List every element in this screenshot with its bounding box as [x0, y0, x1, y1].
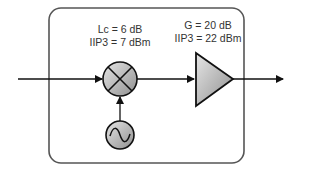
amplifier-triangle-icon	[196, 53, 233, 106]
amplifier-iip3-label: IIP3 = 22 dBm	[163, 32, 253, 45]
mixer-loss-label: Lc = 6 dB	[80, 23, 160, 36]
mixer-cross-icon	[103, 62, 137, 96]
amplifier-gain-label: G = 20 dB	[163, 19, 253, 32]
sine-wave-icon	[106, 121, 134, 149]
mixer-label: Lc = 6 dB IIP3 = 7 dBm	[80, 23, 160, 49]
amplifier-label: G = 20 dB IIP3 = 22 dBm	[163, 19, 253, 45]
mixer-iip3-label: IIP3 = 7 dBm	[80, 36, 160, 49]
